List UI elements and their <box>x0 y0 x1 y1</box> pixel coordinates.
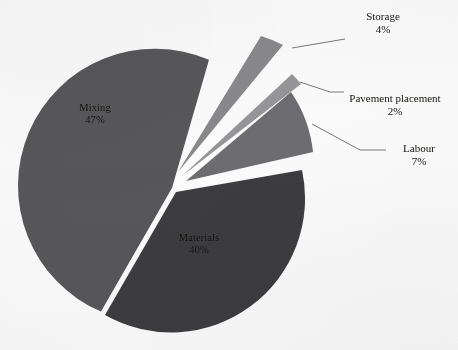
leader-line-labour <box>312 124 386 150</box>
callout-label-labour: Labour 7% <box>386 142 452 168</box>
callout-label-storage: Storage 4% <box>344 10 422 36</box>
callout-label-storage-percent: 4% <box>344 23 422 36</box>
leader-line-pavement-placement <box>300 82 344 92</box>
pie-chart-svg <box>0 0 458 350</box>
slice-label-mixing-name: Mixing <box>60 102 130 114</box>
slice-label-materials-name: Materials <box>159 232 239 244</box>
slice-label-materials: Materials 40% <box>159 232 239 257</box>
slice-label-mixing-percent: 47% <box>60 114 130 126</box>
callout-label-labour-percent: 7% <box>386 155 452 168</box>
slice-label-mixing: Mixing 47% <box>60 102 130 127</box>
leader-line-storage <box>292 39 345 48</box>
callout-label-labour-name: Labour <box>386 142 452 155</box>
callout-label-pavement-placement: Pavement placement 2% <box>333 92 457 118</box>
slice-label-materials-percent: 40% <box>159 244 239 256</box>
callout-label-pavement-placement-name: Pavement placement <box>333 92 457 105</box>
callout-label-pavement-placement-percent: 2% <box>333 105 457 118</box>
callout-label-storage-name: Storage <box>344 10 422 23</box>
pie-chart-figure: Mixing 47% Materials 40% Storage 4% Pave… <box>0 0 458 350</box>
